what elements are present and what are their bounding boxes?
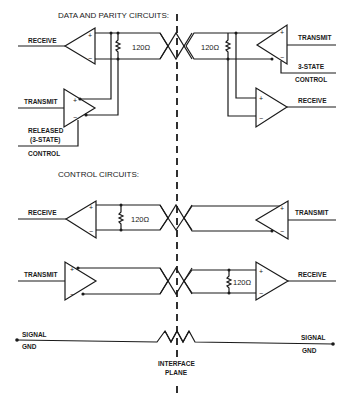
- ctl-left-receive-buffer: + −: [18, 201, 96, 238]
- svg-text:+: +: [259, 95, 263, 102]
- ctl-top-twisted-pair-icon: [160, 205, 192, 218]
- ctl-top-resistor-label: 120Ω: [131, 215, 150, 224]
- dp-left-released-label: RELEASED: [28, 127, 64, 134]
- dp-left-resistor-icon: [116, 33, 120, 59]
- ctl-right-transmit-label: TRANSMIT: [295, 209, 329, 216]
- ground-right-label-1: SIGNAL: [301, 334, 326, 341]
- dp-right-receive-label: RECEIVE: [298, 97, 327, 104]
- svg-text:+: +: [70, 266, 74, 273]
- ctl-bottom-resistor-icon: [227, 270, 231, 293]
- svg-text:+: +: [280, 29, 284, 36]
- svg-text:+: +: [89, 204, 93, 211]
- svg-text:+: +: [280, 205, 284, 212]
- dp-left-receive-label: RECEIVE: [28, 37, 57, 44]
- dp-right-resistor-label: 120Ω: [201, 43, 220, 52]
- svg-text:+: +: [259, 268, 263, 275]
- interface-label-1: INTERFACE: [158, 360, 196, 367]
- heading-control: CONTROL CIRCUITS:: [58, 170, 139, 179]
- ctl-right-receive-buffer: + −: [256, 262, 336, 300]
- signal-ground-line: [15, 331, 335, 346]
- svg-text:+: +: [73, 97, 77, 104]
- svg-text:−: −: [73, 114, 77, 121]
- ctl-top-resistor-icon: [119, 205, 123, 230]
- dp-right-transmit-label: TRANSMIT: [298, 34, 332, 41]
- svg-text:−: −: [259, 115, 263, 122]
- ctl-right-transmit-driver: + −: [256, 201, 336, 239]
- svg-text:−: −: [88, 55, 92, 62]
- ctl-bottom-twisted-pair-icon: [160, 268, 192, 281]
- ground-left-label-1: SIGNAL: [22, 331, 47, 338]
- rs422-interface-diagram: DATA AND PARITY CIRCUITS: CONTROL CIRCUI…: [0, 0, 355, 400]
- ground-left-label-2: GND: [22, 343, 37, 350]
- svg-text:−: −: [280, 228, 284, 235]
- svg-text:−: −: [280, 54, 284, 61]
- ctl-right-receive-label: RECEIVE: [298, 271, 327, 278]
- ground-right-label-2: GND: [302, 347, 317, 354]
- svg-text:−: −: [70, 291, 74, 298]
- dp-left-resistor-label: 120Ω: [132, 43, 151, 52]
- ctl-left-transmit-label: TRANSMIT: [24, 271, 58, 278]
- heading-data-parity: DATA AND PARITY CIRCUITS:: [58, 11, 169, 20]
- ctl-bottom-resistor-label: 120Ω: [233, 278, 252, 287]
- dp-right-3state-label: 3-STATE: [298, 63, 325, 70]
- svg-text:−: −: [259, 290, 263, 297]
- dp-right-transmit-driver: + −: [257, 25, 336, 73]
- dp-left-control-label: CONTROL: [28, 150, 60, 157]
- interface-label-2: PLANE: [165, 369, 188, 376]
- dp-left-transmit-label: TRANSMIT: [24, 98, 58, 105]
- ctl-left-receive-label: RECEIVE: [28, 209, 57, 216]
- svg-text:−: −: [89, 228, 93, 235]
- svg-text:+: +: [88, 32, 92, 39]
- dp-right-receive-buffer: + −: [256, 88, 336, 127]
- dp-left-receive-buffer: + −: [18, 28, 95, 64]
- dp-right-control-label: CONTROL: [295, 76, 327, 83]
- dp-right-resistor-icon: [226, 33, 230, 59]
- dp-left-3state-label: (3-STATE): [30, 136, 60, 144]
